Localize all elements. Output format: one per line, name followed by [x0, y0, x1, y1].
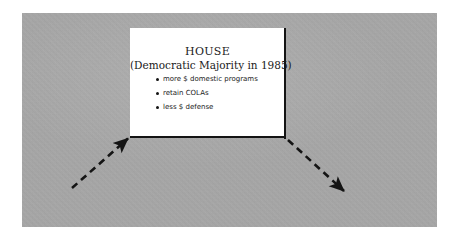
- bullet-dot-icon: [156, 106, 159, 109]
- wall-text-block: HOUSE (Democratic Majority in 1985) more…: [130, 28, 285, 137]
- list-item: retain COLAs: [156, 89, 258, 98]
- bullet-label: less $ defense: [163, 103, 213, 112]
- policy-bullet-list: more $ domestic programs retain COLAs le…: [156, 75, 258, 117]
- list-item: more $ domestic programs: [156, 75, 258, 84]
- list-item: less $ defense: [156, 103, 258, 112]
- house-subtitle: (Democratic Majority in 1985): [130, 59, 285, 71]
- bullet-label: retain COLAs: [163, 89, 209, 98]
- bullet-dot-icon: [156, 78, 159, 81]
- house-title: HOUSE: [130, 46, 285, 58]
- figure-canvas: HOUSE (Democratic Majority in 1985) more…: [0, 0, 462, 241]
- bullet-dot-icon: [156, 92, 159, 95]
- bullet-label: more $ domestic programs: [163, 75, 258, 84]
